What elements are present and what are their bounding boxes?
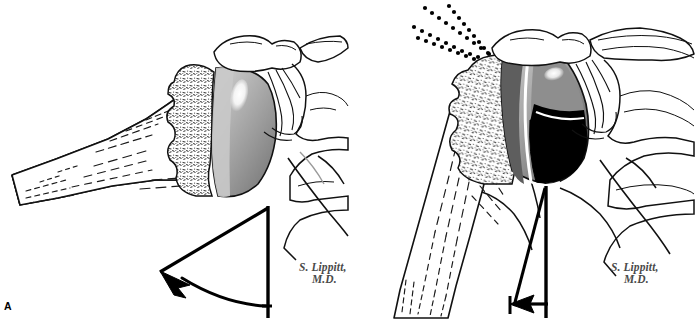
- signature-line1: S. Lippitt,: [611, 261, 658, 273]
- figure-panel-label: A: [4, 300, 12, 312]
- signature-line2: M.D.: [611, 274, 658, 286]
- anatomical-figure: S. Lippitt, M.D. S. Lippitt, M.D. A: [0, 0, 695, 321]
- signature-line1: S. Lippitt,: [299, 261, 346, 273]
- signature-left: S. Lippitt, M.D.: [299, 262, 346, 285]
- shoulder-diagram-svg: [0, 0, 695, 321]
- signature-line2: M.D.: [299, 274, 346, 286]
- signature-right: S. Lippitt, M.D.: [611, 262, 658, 285]
